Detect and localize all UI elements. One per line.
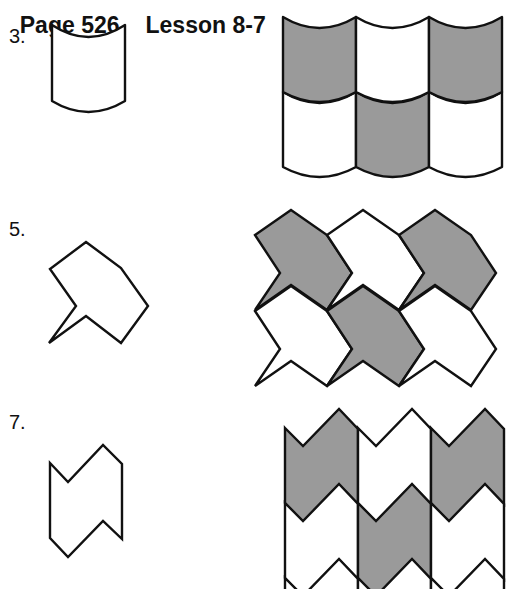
- exercise-7-figure: [0, 0, 513, 589]
- chevron-polygon-tile: [50, 445, 122, 557]
- polygon-shape: [50, 445, 122, 557]
- chevron-tessellation: [285, 409, 504, 589]
